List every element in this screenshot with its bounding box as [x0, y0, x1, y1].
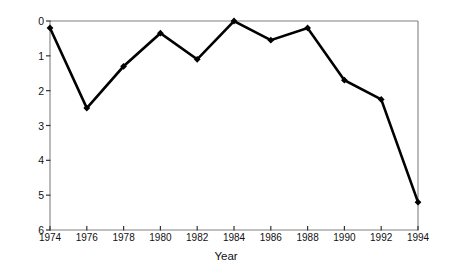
x-tick-label: 1986 — [260, 232, 282, 243]
y-tick-label: 6 — [38, 224, 44, 236]
x-tick-label: 1988 — [296, 232, 318, 243]
y-tick-label: 3 — [38, 120, 44, 132]
x-tick-label: 1976 — [76, 232, 98, 243]
y-tick-label: 4 — [38, 154, 44, 166]
chart-figure: Percent Dem vote loss due to disapproval… — [0, 0, 452, 273]
y-tick-label: 1 — [38, 50, 44, 62]
x-tick-label: 1992 — [370, 232, 392, 243]
y-tick-label: 5 — [38, 189, 44, 201]
x-tick-label: 1990 — [333, 232, 355, 243]
x-tick-label: 1978 — [112, 232, 134, 243]
y-tick-label: 2 — [38, 85, 44, 97]
x-axis-title: Year — [0, 250, 452, 262]
data-point-marker — [415, 199, 422, 206]
x-tick-label: 1984 — [223, 232, 245, 243]
x-tick-label: 1982 — [186, 232, 208, 243]
x-tick-label: 1994 — [407, 232, 429, 243]
y-tick-label: 0 — [38, 15, 44, 27]
x-tick-label: 1980 — [149, 232, 171, 243]
data-line — [50, 21, 418, 202]
